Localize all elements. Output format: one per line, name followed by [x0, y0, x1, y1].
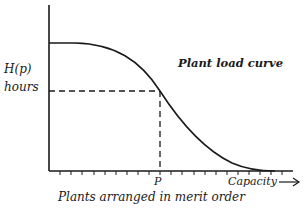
y-axis-label: H(p) [4, 62, 32, 76]
x-axis-label: Capacity [228, 175, 277, 188]
curve-label: Plant load curve [178, 56, 283, 70]
arrow-right-icon [279, 178, 299, 186]
y-axis-unit-label: hours [4, 80, 39, 94]
plant-load-curve-diagram: H(p) hours Plant load curve P Capacity P… [0, 0, 305, 214]
p-marker-label: P [154, 175, 161, 188]
x-axis-caption: Plants arranged in merit order [58, 190, 245, 204]
